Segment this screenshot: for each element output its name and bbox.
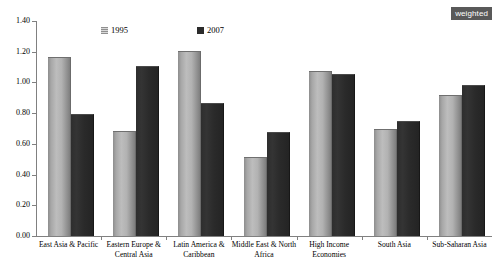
y-axis-tick <box>32 52 36 53</box>
y-axis-tick-label: 0.00 <box>16 232 30 240</box>
y-axis-tick-label: 0.40 <box>16 171 30 179</box>
bar-1995[interactable] <box>244 157 267 236</box>
y-axis-tick <box>32 236 36 237</box>
bar-2007[interactable] <box>201 103 224 236</box>
bar-1995[interactable] <box>48 57 71 236</box>
bar-1995[interactable] <box>439 95 462 236</box>
bar-group <box>309 21 354 236</box>
x-axis-category-label: Sub-Saharan Asia <box>419 240 500 250</box>
y-axis-tick-label: 0.20 <box>16 201 30 209</box>
bar-chart: weighted 1995 2007 0.000.200.400.600.801… <box>0 0 501 277</box>
y-axis-tick <box>32 113 36 114</box>
bar-group <box>178 21 223 236</box>
y-axis-tick-label: 0.80 <box>16 109 30 117</box>
y-axis-tick <box>32 82 36 83</box>
y-axis-tick-label: 0.60 <box>16 140 30 148</box>
x-axis-category-labels: East Asia & PacificEastern Europe & Cent… <box>36 240 492 272</box>
bar-group <box>113 21 158 236</box>
bar-group <box>244 21 289 236</box>
bar-2007[interactable] <box>71 114 94 236</box>
bar-group <box>374 21 419 236</box>
bar-2007[interactable] <box>332 74 355 236</box>
bar-1995[interactable] <box>309 71 332 236</box>
weighted-badge: weighted <box>451 7 492 20</box>
y-axis-tick <box>32 205 36 206</box>
x-axis-line <box>36 236 492 237</box>
y-axis-tick <box>32 21 36 22</box>
bar-group <box>48 21 93 236</box>
bar-2007[interactable] <box>462 85 485 237</box>
y-axis-tick <box>32 175 36 176</box>
y-axis-tick-label: 1.40 <box>16 17 30 25</box>
y-axis-labels: 0.000.200.400.600.801.001.201.40 <box>0 21 30 236</box>
y-axis-line <box>36 21 37 236</box>
bar-2007[interactable] <box>267 132 290 236</box>
plot-area <box>36 21 492 236</box>
bar-1995[interactable] <box>178 51 201 236</box>
bar-2007[interactable] <box>136 66 159 236</box>
y-axis-tick-label: 1.00 <box>16 78 30 86</box>
bar-1995[interactable] <box>374 129 397 236</box>
bar-2007[interactable] <box>397 121 420 236</box>
y-axis-tick-label: 1.20 <box>16 48 30 56</box>
y-axis-tick <box>32 144 36 145</box>
bar-group <box>439 21 484 236</box>
bar-1995[interactable] <box>113 131 136 236</box>
